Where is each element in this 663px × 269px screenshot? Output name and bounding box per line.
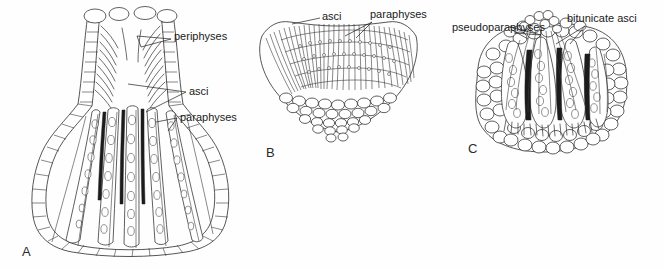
label-pseudoparaphyses: pseudoparaphyses: [452, 21, 545, 33]
panel-a-perithecium: [32, 7, 229, 258]
panel-a-ascus: [147, 108, 168, 245]
label-paraphyses-panel-a: paraphyses: [180, 111, 237, 123]
panel-b-leader-asci: [292, 18, 320, 24]
panel-c-asci: [501, 37, 608, 128]
figure-canvas: periphyses asci paraphyses asci paraphys…: [0, 0, 663, 269]
label-asci-panel-b: asci: [322, 10, 342, 22]
fungal-fruiting-body-figure: periphyses asci paraphyses asci paraphys…: [0, 0, 663, 269]
panel-a-ostiole: [84, 7, 177, 24]
label-bitunicate-asci: bitunicate asci: [567, 12, 637, 24]
panel-letter-c: C: [468, 141, 477, 156]
panel-b-excipulum: [280, 93, 397, 142]
panel-letter-b: B: [266, 145, 275, 160]
panel-letter-a: A: [22, 244, 31, 259]
panel-a-asci: [66, 106, 203, 247]
label-paraphyses-panel-b: paraphyses: [370, 8, 427, 20]
panel-a-ascus: [66, 110, 100, 243]
panel-c-ascus: [529, 37, 556, 128]
label-periphyses: periphyses: [174, 30, 228, 42]
label-asci-panel-a: asci: [189, 85, 209, 97]
panel-c-ascus: [559, 39, 586, 128]
panel-a-periphyses: [95, 26, 166, 108]
panel-a-ascus: [124, 106, 139, 247]
panel-b-apothecium: [260, 18, 418, 142]
